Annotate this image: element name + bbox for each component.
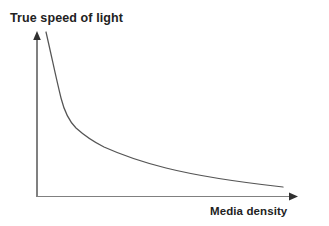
x-axis-label: Media density	[210, 204, 287, 218]
data-curve-true-speed-of-light	[46, 32, 283, 187]
y-axis-arrowhead	[33, 31, 41, 40]
y-axis-label: True speed of light	[10, 11, 123, 26]
x-axis-arrowhead	[289, 193, 298, 201]
chart-figure: True speed of light Media density	[0, 0, 329, 226]
chart-plot-area	[0, 0, 329, 226]
